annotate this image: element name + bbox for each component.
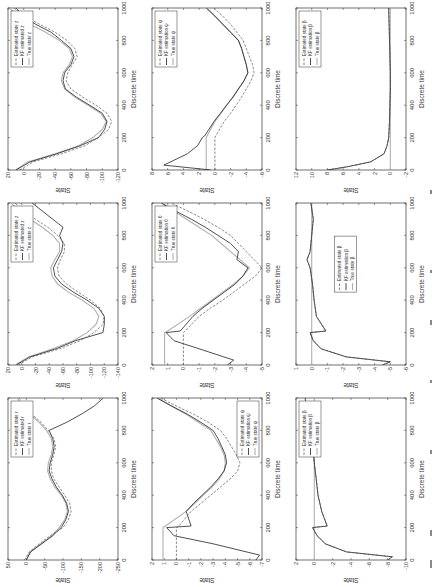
y-tick-label: 2 xyxy=(293,562,299,565)
y-tick-label: -40 xyxy=(52,172,58,180)
y-tick-label: -8 xyxy=(385,562,391,567)
y-tick-label: -60 xyxy=(68,172,74,180)
x-tick-label: 1000 xyxy=(121,2,127,15)
x-tick-label: 200 xyxy=(409,327,415,338)
y-tick-label: 8 xyxy=(149,172,155,175)
y-tick-label: -100 xyxy=(60,562,66,573)
x-tick-label: 0 xyxy=(121,363,127,367)
y-tick-label: -120 xyxy=(101,367,107,378)
legend-entry: True state β xyxy=(315,421,320,446)
y-tick-label: -2 xyxy=(198,562,204,567)
y-tick-label: 0 xyxy=(387,172,393,175)
legend: Estimated state βKF estimation βTrue sta… xyxy=(299,401,321,457)
x-tick-label: 600 xyxy=(409,457,415,468)
y-tick-label: 20 xyxy=(5,367,11,373)
x-tick-label: 200 xyxy=(265,132,271,143)
y-axis-label: State xyxy=(55,382,71,389)
x-tick-label: 600 xyxy=(265,457,271,468)
legend-entry: Estimated state z xyxy=(14,20,19,56)
y-tick-label: -150 xyxy=(78,562,84,573)
x-tick-label: 200 xyxy=(265,522,271,533)
x-tick-label: 400 xyxy=(265,490,271,501)
x-tick-label: 200 xyxy=(409,522,415,533)
chart: 02004006008001000Discrete time20-2-4-6-8… xyxy=(290,392,430,584)
y-tick-label: -4 xyxy=(372,367,378,372)
x-axis-label: Discrete time xyxy=(418,460,425,498)
x-axis-label: Discrete time xyxy=(274,460,281,498)
plot-z-top-right: 02004006008001000Discrete time200-20-40-… xyxy=(2,2,142,194)
y-tick-label: -1 xyxy=(196,367,202,372)
y-tick-label: 20 xyxy=(5,172,11,178)
y-tick-label: -40 xyxy=(46,367,52,375)
x-axis-label: Discrete time xyxy=(130,265,137,303)
x-tick-label: 200 xyxy=(121,327,127,338)
y-tick-label: 0 xyxy=(311,562,317,565)
plot-beta-bottom-left: 02004006008001000Discrete time20-2-4-6-8… xyxy=(290,392,430,584)
y-tick-label: -100 xyxy=(99,172,105,183)
legend-entry: KF estimation β xyxy=(344,249,349,281)
y-tick-label: 2 xyxy=(196,172,202,175)
legend-entry: Estimated state z xyxy=(14,215,19,251)
y-tick-label: 0 xyxy=(180,367,186,370)
chart: 02004006008001000Discrete time500-50-100… xyxy=(2,392,142,584)
x-tick-label: 600 xyxy=(409,262,415,273)
x-tick-label: 600 xyxy=(121,262,127,273)
legend-entry: KF estimated z xyxy=(20,220,25,251)
y-tick-label: -2 xyxy=(228,172,234,177)
legend: Estimated state ψKF estimation ψTrue sta… xyxy=(237,401,259,457)
legend: Estimated state rKF estimated rTrue stat… xyxy=(11,401,33,457)
legend: Estimated state zKF estimated zTrue stat… xyxy=(11,206,33,262)
legend-entry: True state β xyxy=(315,31,320,56)
figure-caption xyxy=(428,150,434,580)
y-tick-label: -1 xyxy=(324,367,330,372)
x-tick-label: 1000 xyxy=(265,392,271,405)
chart: 02004006008001000Discrete time121086420-… xyxy=(290,2,430,194)
y-tick-label: -250 xyxy=(115,562,121,573)
plot-z-top-middle: 02004006008001000Discrete time200-20-40-… xyxy=(2,197,142,389)
x-tick-label: 400 xyxy=(265,100,271,111)
legend-entry: True state z xyxy=(27,226,32,251)
x-tick-label: 800 xyxy=(121,425,127,436)
legend-entry: Estimated state ψ xyxy=(240,410,245,446)
legend-entry: True state β xyxy=(350,256,355,281)
y-tick-label: -10 xyxy=(403,562,409,570)
y-axis-label: State xyxy=(55,577,71,584)
y-tick-label: -3 xyxy=(228,367,234,372)
y-tick-label: -6 xyxy=(403,367,409,372)
x-axis-label: Discrete time xyxy=(130,460,137,498)
legend-entry: Estimated state β xyxy=(302,410,307,446)
y-tick-label: 6 xyxy=(340,172,346,175)
x-axis-label: Discrete time xyxy=(418,70,425,108)
x-tick-label: 1000 xyxy=(121,197,127,210)
y-tick-label: -4 xyxy=(348,562,354,567)
legend: Estimated state ψKF estimation ψTrue sta… xyxy=(155,11,177,67)
x-tick-label: 200 xyxy=(121,132,127,143)
y-tick-label: 0 xyxy=(19,367,25,370)
legend-entry: KF estimated z xyxy=(20,25,25,56)
x-tick-label: 0 xyxy=(409,558,415,562)
legend-entry: KF estimation β xyxy=(308,414,313,446)
y-tick-label: -200 xyxy=(97,562,103,573)
y-tick-label: 1 xyxy=(161,562,167,565)
y-tick-label: -4 xyxy=(243,172,249,177)
y-tick-label: -2 xyxy=(340,367,346,372)
x-tick-label: 400 xyxy=(121,490,127,501)
x-axis-label: Discrete time xyxy=(274,70,281,108)
y-tick-label: -6 xyxy=(259,172,265,177)
x-tick-label: 600 xyxy=(409,67,415,78)
y-tick-label: -5 xyxy=(259,367,265,372)
legend-entry: KF estimation β xyxy=(308,24,313,56)
plot-beta-bottom-right: 02004006008001000Discrete time121086420-… xyxy=(290,2,430,194)
plot-psi-middle-left: 02004006008001000Discrete time210-1-2-3-… xyxy=(146,392,286,584)
y-tick-label: -60 xyxy=(60,367,66,375)
chart: 02004006008001000Discrete time210-1-2-3-… xyxy=(146,197,286,389)
y-tick-label: -6 xyxy=(247,562,253,567)
x-tick-label: 200 xyxy=(265,327,271,338)
x-axis-label: Discrete time xyxy=(274,265,281,303)
y-tick-label: -4 xyxy=(222,562,228,567)
y-axis-label: State xyxy=(199,187,215,194)
legend-entry: True state θ xyxy=(171,226,176,251)
x-tick-label: 800 xyxy=(265,230,271,241)
x-axis-label: Discrete time xyxy=(418,265,425,303)
plot-beta-bottom-middle: 02004006008001000Discrete time10-1-2-3-4… xyxy=(290,197,430,389)
